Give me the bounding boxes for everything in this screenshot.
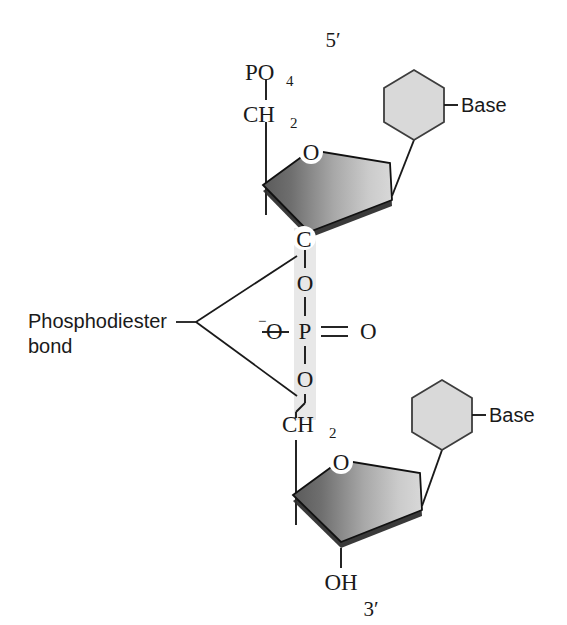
callout-label-line2: bond — [28, 335, 73, 357]
five-prime-label: 5′ — [325, 28, 340, 52]
phosphorus-label: P — [299, 319, 312, 344]
base-hexagon-top — [384, 70, 444, 140]
methylene-top-label: CH — [243, 102, 275, 127]
hydroxyl-label: OH — [324, 570, 357, 595]
three-prime-label: 3′ — [363, 597, 378, 621]
sugar-ring-top — [263, 150, 392, 232]
methylene-bottom-subscript: 2 — [329, 425, 337, 441]
ring-oxygen-top-label: O — [303, 140, 320, 165]
sugar-ring-bottom — [293, 460, 422, 542]
base-hexagon-bottom — [412, 380, 472, 450]
phosphate-group-label: PO — [245, 60, 274, 85]
phosphodiester-bond-diagram: O Base C PO 4 CH 2 5′ O P O − O — [0, 0, 567, 625]
phosphate-group-subscript: 4 — [286, 73, 294, 89]
methylene-top-subscript: 2 — [290, 115, 298, 131]
ester-oxygen-upper-label: O — [297, 271, 314, 296]
ester-oxygen-lower-label: O — [297, 367, 314, 392]
base-label-top: Base — [461, 94, 507, 116]
methylene-bottom-label: CH — [282, 412, 314, 437]
ring-oxygen-bottom-label: O — [333, 450, 350, 475]
diagram-canvas: O Base C PO 4 CH 2 5′ O P O − O — [0, 0, 567, 625]
bond-sugar-to-base-bottom — [422, 450, 442, 506]
double-bond-oxygen-label: O — [360, 319, 377, 344]
callout-label-line1: Phosphodiester — [28, 310, 167, 332]
carbon-top-label: C — [296, 227, 311, 252]
bond-sugar-to-base-top — [392, 140, 414, 196]
base-label-bottom: Base — [489, 404, 535, 426]
callout-leader-branch-upper — [196, 256, 297, 322]
